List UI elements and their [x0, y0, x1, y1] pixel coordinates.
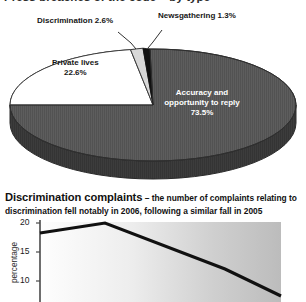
pie-label-accuracy-line1: Accuracy and — [150, 88, 254, 98]
pie-title-main: Press breaches of the code — [4, 0, 156, 3]
y-tick-label-10: 10 — [20, 275, 29, 285]
pie-title-dash: – — [156, 0, 169, 3]
line-chart-heading-bold: Discrimination complaints — [5, 191, 142, 203]
line-chart-block: Discrimination complaints – the number o… — [0, 186, 306, 302]
pie-label-private-lives-name: Private lives — [52, 58, 99, 68]
pie-label-private-lives-value: 22.6% — [52, 68, 99, 78]
pie-chart-title: Press breaches of the code – by type — [4, 0, 210, 3]
pie-label-discrimination: Discrimination 2.6% — [37, 16, 113, 26]
line-chart-graphic — [0, 214, 306, 302]
pie-label-accuracy: Accuracy and opportunity to reply 73.5% — [150, 88, 254, 117]
plot-area-background — [40, 222, 281, 302]
line-chart-heading-dash: – — [142, 193, 151, 203]
y-tick-label-20: 20 — [20, 217, 29, 227]
y-axis-title: percentage — [10, 233, 19, 293]
y-tick-label-15: 15 — [20, 246, 29, 256]
pie-chart-block: Discrimination 2.6% Newsgathering 1.3% P… — [0, 10, 306, 180]
pie-title-sub: by type — [169, 0, 210, 3]
pie-label-accuracy-line3: 73.5% — [150, 108, 254, 118]
pie-label-private-lives: Private lives 22.6% — [52, 58, 99, 78]
pie-callout-lines — [118, 30, 162, 49]
pie-label-accuracy-line2: opportunity to reply — [150, 98, 254, 108]
pie-label-newsgathering: Newsgathering 1.3% — [158, 11, 236, 21]
figure-page: Press breaches of the code – by type — [0, 0, 306, 302]
